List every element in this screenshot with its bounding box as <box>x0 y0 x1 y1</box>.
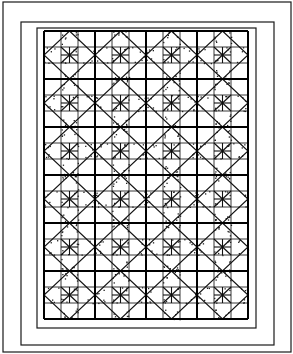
quilt-block <box>95 271 146 319</box>
quilt-block <box>197 127 248 175</box>
quilt-block <box>146 223 197 271</box>
quilt-block <box>95 31 146 79</box>
quilt-block <box>44 223 95 271</box>
quilt-block <box>44 31 95 79</box>
quilt-block <box>197 175 248 223</box>
quilt-block <box>146 175 197 223</box>
quilt-block <box>44 175 95 223</box>
quilt-block <box>95 223 146 271</box>
quilt-block <box>95 127 146 175</box>
quilt-block <box>197 223 248 271</box>
quilt-block <box>146 271 197 319</box>
quilt-block <box>146 79 197 127</box>
quilt-blocks <box>44 31 248 319</box>
quilt-block <box>197 79 248 127</box>
quilt-block <box>146 31 197 79</box>
quilt-block <box>197 31 248 79</box>
quilt-block <box>95 79 146 127</box>
quilt-block <box>44 79 95 127</box>
quilt-block <box>146 127 197 175</box>
quilt-block <box>44 271 95 319</box>
quilt-block <box>44 127 95 175</box>
quilt-block <box>95 175 146 223</box>
quilt-block <box>197 271 248 319</box>
quilt-diagram <box>0 0 293 354</box>
